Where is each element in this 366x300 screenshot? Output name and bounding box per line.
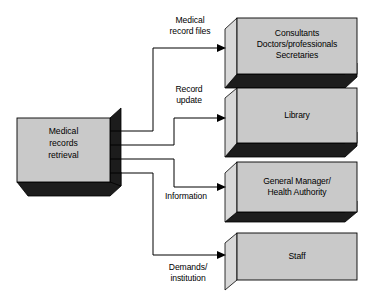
node-staff[interactable] [225, 233, 357, 290]
library-face [237, 88, 357, 143]
connector-medical-record-files[interactable] [110, 48, 224, 131]
node-general-manager[interactable] [225, 162, 357, 222]
diagram-canvas: Medical records retrieval Consultants Do… [0, 0, 366, 300]
staff-left-bevel [225, 233, 237, 290]
consultants-face [237, 18, 357, 74]
staff-face [237, 233, 357, 280]
diagram-graphics [0, 0, 366, 300]
node-library[interactable] [225, 88, 357, 157]
source-box-right-shadow [110, 108, 121, 186]
general-manager-face [237, 162, 357, 212]
node-medical-records-retrieval[interactable] [17, 108, 121, 196]
connector-demands-institution[interactable] [110, 173, 224, 255]
flow-connectors [110, 48, 224, 255]
source-box-face [17, 118, 110, 182]
node-consultants[interactable] [225, 18, 357, 88]
general-manager-left-bevel [225, 162, 237, 222]
